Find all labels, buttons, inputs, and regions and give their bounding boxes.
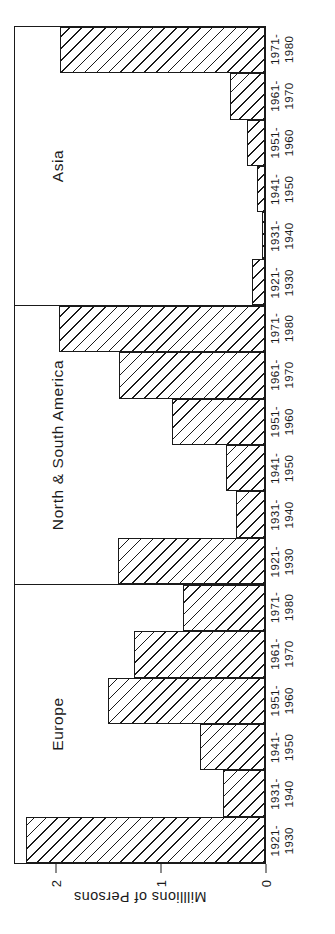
x-tick-line1: 1921- <box>268 259 282 306</box>
value-axis: Milllions of Persons 012 <box>14 864 266 934</box>
bar <box>119 352 265 398</box>
bar <box>247 120 265 166</box>
x-tick-label: 1961-1970 <box>268 352 296 399</box>
x-tick-line2: 1950 <box>282 724 296 771</box>
x-tick-label: 1951-1960 <box>268 119 296 166</box>
x-tick-line1: 1941- <box>268 724 282 771</box>
x-tick-line2: 1980 <box>282 26 296 73</box>
panel-north-and-south-america: North & South America <box>14 305 266 585</box>
x-tick-label: 1941-1950 <box>268 166 296 213</box>
x-tick-line2: 1930 <box>282 538 296 585</box>
x-tick-line1: 1971- <box>268 305 282 352</box>
x-tick-label: 1941-1950 <box>268 724 296 771</box>
bar <box>118 538 265 584</box>
bar-group <box>13 585 265 863</box>
bar <box>200 724 265 770</box>
y-tick-mark <box>161 864 162 873</box>
y-tick-label: 0 <box>259 880 274 887</box>
x-tick-line1: 1971- <box>268 26 282 73</box>
x-tick-line1: 1941- <box>268 445 282 492</box>
x-tick-label: 1921-1930 <box>268 259 296 306</box>
bar <box>236 491 265 537</box>
x-tick-line1: 1931- <box>268 492 282 539</box>
x-tick-line2: 1960 <box>282 677 296 724</box>
bar <box>183 585 265 631</box>
rotated-figure-wrapper: Milllions of Persons 012 Europe North & … <box>0 0 335 934</box>
bar <box>59 306 265 352</box>
bar <box>108 678 266 724</box>
x-tick-label: 1951-1960 <box>268 677 296 724</box>
x-tick-line2: 1930 <box>282 259 296 306</box>
bar <box>257 166 265 212</box>
x-tick-line2: 1980 <box>282 584 296 631</box>
x-tick-label: 1941-1950 <box>268 445 296 492</box>
category-axis: 1921-19301931-19401941-19501951-19601961… <box>268 26 308 864</box>
x-tick-line2: 1980 <box>282 305 296 352</box>
x-tick-line2: 1960 <box>282 119 296 166</box>
x-tick-line1: 1961- <box>268 73 282 120</box>
x-tick-label: 1921-1930 <box>268 538 296 585</box>
x-tick-label: 1951-1960 <box>268 398 296 445</box>
bar-group <box>13 306 265 584</box>
x-tick-line2: 1950 <box>282 166 296 213</box>
x-tick-label: 1921-1930 <box>268 817 296 864</box>
bar <box>252 259 265 305</box>
x-tick-line1: 1961- <box>268 631 282 678</box>
x-tick-line1: 1941- <box>268 166 282 213</box>
bar <box>230 73 265 119</box>
x-tick-line2: 1970 <box>282 73 296 120</box>
x-tick-line2: 1940 <box>282 771 296 818</box>
x-tick-line1: 1921- <box>268 538 282 585</box>
x-tick-line1: 1951- <box>268 119 282 166</box>
y-tick-mark <box>56 864 57 873</box>
x-tick-line1: 1961- <box>268 352 282 399</box>
y-tick-mark <box>266 864 267 873</box>
x-tick-line1: 1951- <box>268 677 282 724</box>
x-tick-line1: 1931- <box>268 213 282 260</box>
x-tick-line2: 1970 <box>282 631 296 678</box>
panel-asia: Asia <box>14 26 266 306</box>
x-tick-line2: 1930 <box>282 817 296 864</box>
bar <box>223 770 265 816</box>
x-tick-label: 1971-1980 <box>268 26 296 73</box>
bar-group <box>13 27 265 305</box>
x-tick-label: 1931-1940 <box>268 771 296 818</box>
bar-chart-figure: Milllions of Persons 012 Europe North & … <box>0 0 335 934</box>
x-tick-line1: 1931- <box>268 771 282 818</box>
x-tick-label: 1931-1940 <box>268 492 296 539</box>
x-tick-line2: 1940 <box>282 213 296 260</box>
x-tick-label: 1931-1940 <box>268 213 296 260</box>
x-tick-line1: 1971- <box>268 584 282 631</box>
y-tick-label: 1 <box>154 880 169 887</box>
panel-europe: Europe <box>14 584 266 864</box>
x-tick-label: 1971-1980 <box>268 305 296 352</box>
plot-area: Europe North & South America Asia <box>14 26 266 864</box>
y-axis-title: Milllions of Persons <box>40 889 240 905</box>
x-tick-line1: 1951- <box>268 398 282 445</box>
x-tick-line2: 1960 <box>282 398 296 445</box>
x-tick-label: 1961-1970 <box>268 631 296 678</box>
bar <box>226 445 265 491</box>
bar <box>134 631 265 677</box>
x-tick-label: 1961-1970 <box>268 73 296 120</box>
x-tick-line2: 1970 <box>282 352 296 399</box>
bar <box>26 817 265 863</box>
x-tick-label: 1971-1980 <box>268 584 296 631</box>
x-tick-line2: 1940 <box>282 492 296 539</box>
x-tick-line1: 1921- <box>268 817 282 864</box>
bar <box>60 27 265 73</box>
y-tick-label: 2 <box>49 880 64 887</box>
bar <box>172 399 265 445</box>
x-tick-line2: 1950 <box>282 445 296 492</box>
bar <box>262 212 265 258</box>
